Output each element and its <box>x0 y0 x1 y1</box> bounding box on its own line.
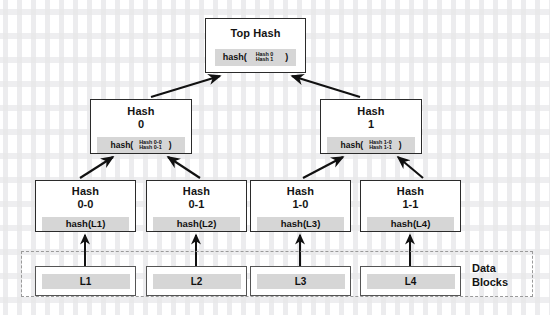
hash-0-0-formula: hash(L1) <box>42 217 129 231</box>
hash-1-1-title-line2: 1-1 <box>397 198 424 211</box>
hash-1-formula-open: hash( <box>341 140 364 150</box>
hash-1-1-title: Hash 1-1 <box>397 181 424 211</box>
edge-hash11-to-hash1 <box>398 157 423 178</box>
hash-0-formula-close: ) <box>169 140 172 150</box>
hash-0-1-title: Hash 0-1 <box>183 181 210 211</box>
hash-0-arg-1: Hash 0-1 <box>139 145 161 150</box>
hash-0-1-title-line1: Hash <box>183 185 210 198</box>
edge-hash1-to-top <box>292 76 360 97</box>
edge-hash01-to-hash0 <box>168 157 200 178</box>
hash-0-formula: hash( Hash 0-0 Hash 0-1 ) <box>97 137 185 153</box>
hash-0-title-line1: Hash <box>127 105 154 118</box>
hash-0-0-title-line2: 0-0 <box>72 198 99 211</box>
edge-hash10-to-hash1 <box>303 157 343 178</box>
hash-0-0-title: Hash 0-0 <box>72 181 99 211</box>
hash-1-0-title: Hash 1-0 <box>287 181 314 211</box>
hash-1-title-line1: Hash <box>357 105 384 118</box>
node-hash-0-1[interactable]: Hash 0-1 hash(L2) <box>146 180 247 232</box>
top-hash-arg-1: Hash 1 <box>256 57 274 62</box>
data-block-l3-label: L3 <box>257 274 345 289</box>
node-hash-0[interactable]: Hash 0 hash( Hash 0-0 Hash 0-1 ) <box>90 99 192 154</box>
edge-hash00-to-hash0 <box>80 157 113 178</box>
node-hash-1-1[interactable]: Hash 1-1 hash(L4) <box>360 180 461 232</box>
hash-1-0-formula: hash(L3) <box>257 217 344 231</box>
hash-1-formula: hash( Hash 1-0 Hash 1-1 ) <box>327 137 415 153</box>
data-block-l2[interactable]: L2 <box>146 266 247 296</box>
hash-1-formula-args: Hash 1-0 Hash 1-1 <box>369 140 391 151</box>
hash-1-0-title-line1: Hash <box>287 185 314 198</box>
merkle-tree-diagram: Top Hash hash( Hash 0 Hash 1 ) Hash 0 ha… <box>0 0 550 315</box>
hash-1-1-formula: hash(L4) <box>367 217 454 231</box>
hash-0-1-title-line2: 0-1 <box>183 198 210 211</box>
hash-0-0-title-line1: Hash <box>72 185 99 198</box>
hash-1-arg-1: Hash 1-1 <box>369 145 391 150</box>
data-block-l2-label: L2 <box>153 274 241 289</box>
data-block-l4[interactable]: L4 <box>360 266 461 296</box>
top-hash-formula-close: ) <box>285 52 288 62</box>
data-block-l1-label: L1 <box>42 274 130 289</box>
node-hash-0-0[interactable]: Hash 0-0 hash(L1) <box>35 180 136 232</box>
hash-1-formula-close: ) <box>399 140 402 150</box>
data-block-l1[interactable]: L1 <box>35 266 136 296</box>
edge-hash0-to-top <box>151 76 220 97</box>
data-blocks-label: Data Blocks <box>472 262 528 290</box>
node-top-hash[interactable]: Top Hash hash( Hash 0 Hash 1 ) <box>205 18 306 73</box>
hash-1-title-line2: 1 <box>357 118 384 131</box>
data-block-l3[interactable]: L3 <box>250 266 351 296</box>
data-blocks-label-line2: Blocks <box>472 276 528 290</box>
hash-1-title: Hash 1 <box>357 100 384 131</box>
top-hash-formula-args: Hash 0 Hash 1 <box>256 52 274 63</box>
hash-1-0-title-line2: 1-0 <box>287 198 314 211</box>
hash-0-formula-open: hash( <box>111 140 134 150</box>
top-hash-formula: hash( Hash 0 Hash 1 ) <box>215 49 296 66</box>
data-block-l4-label: L4 <box>367 274 455 289</box>
node-hash-1[interactable]: Hash 1 hash( Hash 1-0 Hash 1-1 ) <box>320 99 422 154</box>
data-blocks-label-line1: Data <box>472 262 528 276</box>
hash-0-1-formula: hash(L2) <box>153 217 240 231</box>
top-hash-formula-open: hash( <box>223 52 247 62</box>
top-hash-title: Top Hash <box>230 19 280 40</box>
hash-0-formula-args: Hash 0-0 Hash 0-1 <box>139 140 161 151</box>
hash-1-1-title-line1: Hash <box>397 185 424 198</box>
hash-0-title-line2: 0 <box>127 118 154 131</box>
hash-0-title: Hash 0 <box>127 100 154 131</box>
node-hash-1-0[interactable]: Hash 1-0 hash(L3) <box>250 180 351 232</box>
